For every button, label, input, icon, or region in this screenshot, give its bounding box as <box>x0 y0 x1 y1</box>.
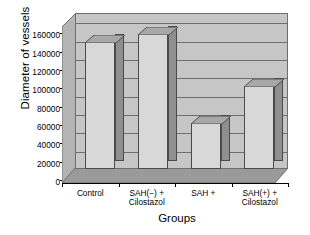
y-axis-tick-label: 40000 <box>14 141 60 149</box>
y-axis-tick-label: 160000 <box>14 31 60 39</box>
x-axis-title: Groups <box>0 212 310 224</box>
x-axis-category-label-line: SAH + <box>175 189 232 198</box>
plot-area <box>62 13 288 183</box>
plot-left-wall <box>62 13 76 183</box>
x-axis-category-label-line: Control <box>62 189 119 198</box>
x-axis-tick-mark <box>119 183 120 187</box>
bar-top-face <box>244 79 284 87</box>
bar <box>244 86 274 169</box>
y-axis-tick-label: 100000 <box>14 86 60 94</box>
bar-top-face <box>191 116 231 124</box>
y-axis-tick-label: 120000 <box>14 68 60 76</box>
x-axis-category-label: SAH(+) +Cilostazol <box>232 189 289 207</box>
x-axis-category-label: SAH + <box>175 189 232 198</box>
bar <box>191 123 221 169</box>
y-axis-tick-labels: 0200004000060000800001000001200001400001… <box>12 0 60 235</box>
y-axis-tick-label: 20000 <box>14 160 60 168</box>
bar-top-face <box>85 35 125 43</box>
bar-series <box>75 13 288 169</box>
bar-side-face <box>274 78 283 161</box>
x-axis-category-label-line: Cilostazol <box>232 198 289 207</box>
bar-front-face <box>191 123 221 169</box>
plot-floor <box>62 168 288 183</box>
x-axis-tick-mark <box>62 183 63 187</box>
y-axis-tick-label: 60000 <box>14 123 60 131</box>
bar <box>85 42 115 169</box>
y-axis-tick-label: 80000 <box>14 105 60 113</box>
y-axis-tick-label: 0 <box>14 178 60 186</box>
bar-front-face <box>244 86 274 169</box>
x-axis-tick-mark <box>288 183 289 187</box>
bar-side-face <box>168 26 177 161</box>
bar <box>138 34 168 169</box>
bar-front-face <box>138 34 168 169</box>
x-axis-tick-mark <box>175 183 176 187</box>
bar-top-face <box>138 27 178 35</box>
x-axis-category-label: Control <box>62 189 119 198</box>
y-axis-tick-label: 140000 <box>14 50 60 58</box>
x-axis-category-label-line: Cilostazol <box>119 198 176 207</box>
x-axis-category-label: SAH(−) +Cilostazol <box>119 189 176 207</box>
x-axis-title-text: Groups <box>158 212 196 224</box>
x-axis-tick-mark <box>232 183 233 187</box>
bar-side-face <box>115 34 124 161</box>
bar-chart-figure: Diameter of vessels 02000040000600008000… <box>0 0 310 235</box>
bar-front-face <box>85 42 115 169</box>
